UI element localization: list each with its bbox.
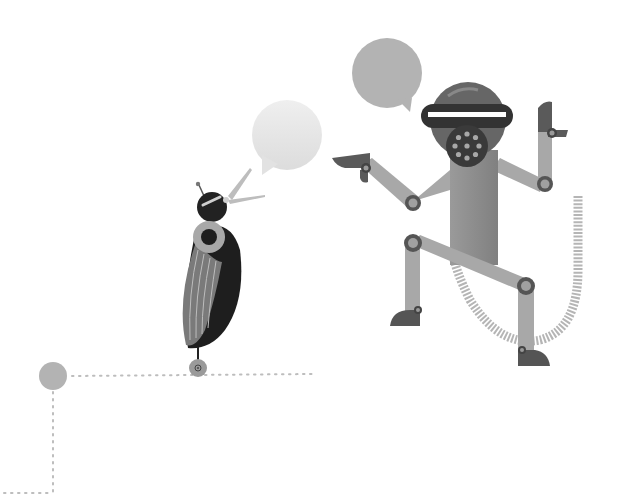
bird-beak-upper [228, 168, 252, 200]
robot-monkey [332, 82, 568, 366]
robot-speech-bubble [352, 38, 422, 112]
path-node [39, 362, 67, 390]
bird-speech-bubble [252, 100, 322, 175]
bird-head [197, 192, 227, 222]
bird [183, 168, 265, 377]
illustration-canvas [0, 0, 618, 501]
bird-eye [201, 229, 217, 245]
dotted-path [4, 362, 312, 493]
